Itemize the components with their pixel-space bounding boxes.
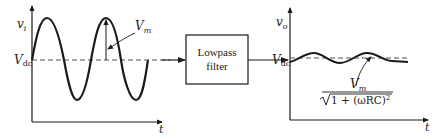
input-plot: vi Vdc Vm t (14, 6, 185, 136)
output-y-label: vo (276, 15, 288, 31)
input-dc-label: Vdc (14, 53, 33, 68)
lowpass-filter-diagram: vi Vdc Vm t Lowpass filter vo Vdc Vm 1 +… (0, 0, 440, 139)
filter-label-line1: Lowpass (197, 46, 236, 58)
output-amplitude-numerator: Vm (350, 77, 367, 93)
input-y-label: vi (17, 17, 27, 33)
output-dc-label: Vdc (272, 53, 291, 68)
output-amplitude-denominator: 1 + (ωRC)2 (331, 94, 390, 106)
input-sine-wave (32, 18, 148, 100)
input-amplitude-label: Vm (135, 19, 152, 35)
filter-label-line2: filter (206, 60, 228, 72)
output-x-label: t (425, 121, 430, 134)
input-x-label: t (159, 123, 164, 136)
amplitude-leader (108, 33, 135, 49)
output-plot: vo Vdc Vm 1 + (ωRC)2 t (272, 8, 430, 134)
